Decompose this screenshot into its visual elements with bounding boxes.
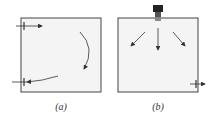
diagram xyxy=(0,0,211,124)
diffuser-body xyxy=(153,5,163,12)
panel-a xyxy=(12,18,101,92)
diffuser-head xyxy=(155,17,161,21)
panel-b xyxy=(118,5,205,92)
panel-label-a: (a) xyxy=(41,101,81,112)
panel-label-b: (b) xyxy=(138,101,178,112)
